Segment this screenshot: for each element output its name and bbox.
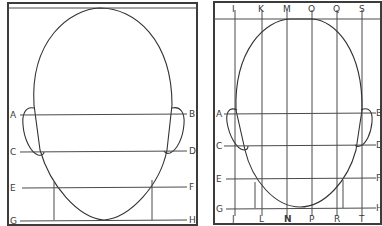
right-label-f: F [376, 173, 381, 183]
left-label-a: A [10, 110, 17, 120]
right-label-k: K [258, 4, 265, 14]
right-label-p: P [309, 214, 315, 224]
left-label-b: B [189, 109, 195, 119]
right-label-n: N [284, 214, 292, 224]
right-label-e: E [216, 174, 222, 184]
right-label-a: A [216, 109, 223, 119]
right-line-gh [226, 208, 376, 209]
left-line-ef [22, 187, 187, 188]
left-label-f: F [189, 182, 194, 192]
right-label-t: T [358, 214, 365, 224]
right-label-l: L [259, 214, 264, 224]
right-panel: I K M O Q S J L N P R T A B C D E F G H [214, 2, 382, 224]
right-label-h: H [376, 203, 382, 213]
right-line-ef [226, 178, 376, 179]
left-label-c: C [10, 147, 16, 157]
right-label-m: M [283, 4, 291, 14]
left-label-g: G [10, 216, 17, 226]
right-label-b: B [376, 108, 382, 118]
right-line-cd [224, 145, 376, 146]
left-line-cd [20, 151, 187, 152]
left-line-gh [20, 220, 187, 221]
right-label-g: G [216, 204, 223, 214]
right-line-ab [224, 113, 376, 114]
right-label-d: D [376, 140, 382, 150]
right-label-o: O [308, 4, 315, 14]
right-label-q: Q [333, 4, 340, 14]
head-proportion-diagram: A B C D E F G H I K M O [0, 0, 382, 226]
left-line-ab [20, 114, 187, 115]
left-label-h: H [189, 215, 196, 225]
right-label-j: J [231, 214, 235, 224]
right-label-i: I [232, 4, 235, 14]
right-label-c: C [216, 141, 222, 151]
right-label-s: S [359, 4, 365, 14]
left-label-e: E [10, 183, 16, 193]
left-label-d: D [189, 146, 196, 156]
right-label-r: R [334, 214, 340, 224]
left-panel: A B C D E F G H [8, 3, 197, 226]
